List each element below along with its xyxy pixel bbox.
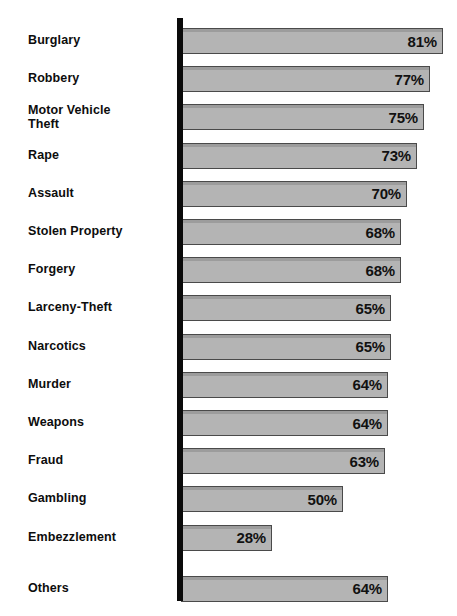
bar-row: Narcotics65% [0,334,457,360]
bar-value-label: 64% [353,376,387,393]
bar-value-label: 70% [372,185,406,202]
category-label: Embezzlement [28,531,174,545]
bar-value-label: 73% [382,147,416,164]
category-label: Fraud [28,454,174,468]
bar: 64% [181,410,388,436]
category-label: Assault [28,187,174,201]
bar-row: Gambling50% [0,486,457,512]
bar: 68% [181,219,401,245]
bar-value-label: 68% [366,262,400,279]
bar: 75% [181,104,424,130]
category-label: Others [28,582,174,596]
bar-row: Burglary81% [0,28,457,54]
bar: 73% [181,143,417,169]
category-label: Robbery [28,72,174,86]
bar: 81% [181,28,443,54]
bar: 28% [181,525,272,551]
bar-row: Assault70% [0,181,457,207]
bar-value-label: 63% [350,453,384,470]
bar-row: Forgery68% [0,257,457,283]
bar-value-label: 77% [395,71,429,88]
bar-value-label: 50% [308,491,342,508]
category-label: Murder [28,378,174,392]
category-label: Rape [28,149,174,163]
bar: 64% [181,576,388,602]
bar: 63% [181,448,385,474]
category-label: Gambling [28,493,174,507]
bar-top-shading [181,29,442,32]
bar-value-label: 65% [356,338,390,355]
bar: 70% [181,181,407,207]
bar: 77% [181,66,430,92]
bar-row: Others64% [0,576,457,602]
bar-value-label: 75% [389,109,423,126]
bar-row: Weapons64% [0,410,457,436]
bar-row: Stolen Property68% [0,219,457,245]
bar-value-label: 64% [353,415,387,432]
category-label: Burglary [28,34,174,48]
bar-rows: Burglary81%Robbery77%Motor Vehicle Theft… [0,0,457,616]
bar-row: Fraud63% [0,448,457,474]
bar: 50% [181,486,343,512]
category-label: Larceny-Theft [28,302,174,316]
bar-top-shading [181,105,423,108]
bar-row: Larceny-Theft65% [0,295,457,321]
category-axis-line [177,18,183,601]
bar-top-shading [181,67,429,70]
bar-value-label: 81% [408,33,442,50]
bar-value-label: 28% [237,529,271,546]
category-label: Narcotics [28,340,174,354]
bar-row: Murder64% [0,372,457,398]
bar: 64% [181,372,388,398]
bar-row: Robbery77% [0,66,457,92]
bar-value-label: 65% [356,300,390,317]
bar: 65% [181,334,391,360]
category-label: Motor Vehicle Theft [28,104,174,131]
category-label: Forgery [28,263,174,277]
bar-row: Rape73% [0,143,457,169]
bar: 65% [181,295,391,321]
bar-value-label: 68% [366,224,400,241]
bar-value-label: 64% [353,580,387,597]
category-label: Stolen Property [28,225,174,239]
bar-row: Motor Vehicle Theft75% [0,104,457,130]
bar: 68% [181,257,401,283]
bar-chart: Burglary81%Robbery77%Motor Vehicle Theft… [0,0,457,616]
category-label: Weapons [28,416,174,430]
bar-row: Embezzlement28% [0,525,457,551]
